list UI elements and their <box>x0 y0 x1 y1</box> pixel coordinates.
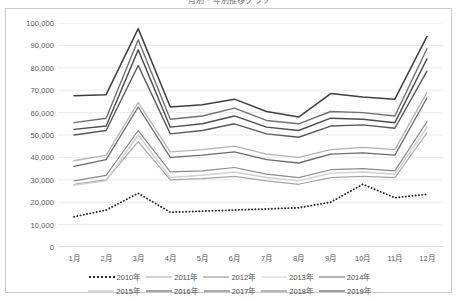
legend-item-2011年[interactable]: 2011年 <box>146 271 197 282</box>
legend-swatch-icon <box>261 287 287 295</box>
y-axis-tick-label: 90,000 <box>30 41 54 50</box>
legend-label: 2013年 <box>289 271 313 282</box>
legend-row: 2015年2016年2017年2018年2019年 <box>85 285 373 296</box>
chart-plot-frame: 100,00090,00080,00070,00060,00050,00040,… <box>5 8 452 293</box>
legend-item-2017年[interactable]: 2017年 <box>204 285 256 296</box>
y-axis-tick-label: 50,000 <box>30 131 54 140</box>
legend-item-2014年[interactable]: 2014年 <box>319 271 371 282</box>
legend-item-2010年[interactable]: 2010年 <box>89 271 141 282</box>
x-axis-tick-label: 8月 <box>293 252 304 263</box>
legend-item-2018年[interactable]: 2018年 <box>261 285 313 296</box>
y-axis-tick-label: 60,000 <box>30 108 54 117</box>
legend-swatch-icon <box>319 273 345 281</box>
legend-label: 2015年 <box>116 285 140 296</box>
y-axis-tick-label: 100,000 <box>26 19 54 28</box>
legend-label: 2014年 <box>347 271 371 282</box>
x-axis-tick-label: 10月 <box>355 252 370 263</box>
legend-label: 2011年 <box>174 271 197 282</box>
legend-swatch-icon <box>203 273 229 281</box>
legend-swatch-icon <box>146 273 172 281</box>
series-line-2011年 <box>74 133 427 185</box>
x-axis-tick-label: 12月 <box>419 252 434 263</box>
x-axis-tick-label: 4月 <box>165 252 176 263</box>
y-axis-labels: 100,00090,00080,00070,00060,00050,00040,… <box>6 23 54 247</box>
chart-container: 月別・年別推移グラフ 100,00090,00080,00070,00060,0… <box>0 0 458 301</box>
x-axis-tick-label: 7月 <box>261 252 272 263</box>
legend-label: 2019年 <box>347 285 371 296</box>
x-axis-tick-label: 11月 <box>387 252 402 263</box>
legend-swatch-icon <box>204 287 230 295</box>
legend-swatch-icon <box>319 287 345 295</box>
x-axis-labels: 1月2月3月4月5月6月7月8月9月10月11月12月 <box>58 252 443 266</box>
series-line-2019年 <box>74 29 427 117</box>
legend-item-2019年[interactable]: 2019年 <box>319 285 371 296</box>
legend-label: 2018年 <box>289 285 313 296</box>
legend-label: 2012年 <box>231 271 255 282</box>
y-axis-tick-label: 0 <box>50 243 54 252</box>
x-axis-tick-label: 1月 <box>68 252 79 263</box>
chart-title: 月別・年別推移グラフ <box>0 0 458 6</box>
y-axis-tick-label: 40,000 <box>30 153 54 162</box>
y-axis-tick-label: 30,000 <box>30 175 54 184</box>
y-axis-tick-label: 80,000 <box>30 63 54 72</box>
legend-swatch-icon <box>261 273 287 281</box>
legend-swatch-icon <box>89 273 115 281</box>
legend-label: 2017年 <box>232 285 256 296</box>
legend-swatch-icon <box>88 287 114 295</box>
legend-item-2015年[interactable]: 2015年 <box>88 285 140 296</box>
x-axis-tick-label: 3月 <box>133 252 144 263</box>
legend-item-2016年[interactable]: 2016年 <box>146 285 198 296</box>
series-line-2010年 <box>74 184 427 216</box>
plot-area <box>58 23 443 247</box>
x-axis-tick-label: 9月 <box>325 252 336 263</box>
legend-swatch-icon <box>146 287 172 295</box>
y-axis-tick-label: 70,000 <box>30 86 54 95</box>
y-axis-tick-label: 20,000 <box>30 198 54 207</box>
x-axis-tick-label: 2月 <box>101 252 112 263</box>
chart-legend: 2010年2011年2012年2013年2014年2015年2016年2017年… <box>6 271 453 296</box>
legend-row: 2010年2011年2012年2013年2014年 <box>86 271 374 282</box>
y-axis-tick-label: 10,000 <box>30 220 54 229</box>
series-line-2014年 <box>74 98 427 166</box>
legend-item-2012年[interactable]: 2012年 <box>203 271 255 282</box>
legend-label: 2010年 <box>117 271 141 282</box>
series-line-2016年 <box>74 50 427 131</box>
legend-item-2013年[interactable]: 2013年 <box>261 271 313 282</box>
legend-label: 2016年 <box>174 285 198 296</box>
x-axis-tick-label: 6月 <box>229 252 240 263</box>
x-axis-tick-label: 5月 <box>197 252 208 263</box>
series-lines <box>58 23 443 247</box>
